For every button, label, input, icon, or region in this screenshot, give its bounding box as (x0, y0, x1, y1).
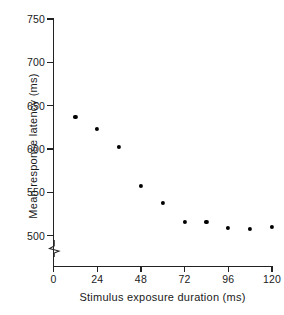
data-point (204, 220, 208, 224)
y-tick-label-750: 750 (27, 13, 45, 25)
x-tick-0 (53, 266, 54, 272)
y-tick-700 (47, 62, 54, 63)
y-tick-550 (47, 192, 54, 193)
x-tick-label-120: 120 (263, 273, 281, 285)
x-tick-96 (228, 266, 229, 272)
x-tick-label-72: 72 (179, 273, 191, 285)
data-point (226, 226, 230, 230)
data-point (73, 115, 77, 119)
scatter-plot-figure: 500550600650700750 024487296120 Mean res… (0, 0, 284, 315)
data-point (248, 226, 252, 230)
y-tick-600 (47, 148, 54, 149)
data-point (183, 220, 187, 224)
y-axis-break-icon (48, 240, 61, 257)
data-point (161, 200, 165, 204)
x-tick-label-0: 0 (50, 273, 56, 285)
x-tick-120 (271, 266, 272, 272)
x-axis-title: Stimulus exposure duration (ms) (53, 291, 272, 303)
x-tick-label-24: 24 (91, 273, 103, 285)
x-tick-label-96: 96 (222, 273, 234, 285)
x-tick-24 (97, 266, 98, 272)
data-point (117, 145, 121, 149)
data-point (270, 225, 274, 229)
x-axis-line (53, 266, 272, 267)
y-tick-500 (47, 235, 54, 236)
y-axis-title: Mean response latency (ms) (27, 51, 39, 241)
x-tick-label-48: 48 (135, 273, 147, 285)
y-axis-line (53, 18, 54, 266)
data-point (95, 127, 99, 131)
y-tick-750 (47, 18, 54, 19)
x-tick-72 (184, 266, 185, 272)
data-point (139, 184, 143, 188)
x-tick-48 (140, 266, 141, 272)
y-tick-650 (47, 105, 54, 106)
